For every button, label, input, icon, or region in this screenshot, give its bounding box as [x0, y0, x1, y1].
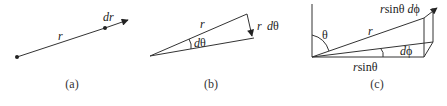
rsintheta-dphi-label: rsinθ dϕ: [380, 2, 420, 16]
dtheta-arc: [189, 39, 191, 49]
theta-label: θ: [322, 28, 328, 42]
panel-a: r dr (a): [15, 10, 128, 91]
dphi-arc: [381, 49, 383, 57]
r-dtheta-label-d: dθ: [267, 19, 279, 33]
spherical-displacement-diagram: r dr (a) r dθ r dθ (b) θ r dϕ rsinθ rsin…: [0, 0, 447, 106]
r-dtheta-label-r: r: [257, 19, 262, 33]
dphi-label: dϕ: [400, 44, 412, 58]
rsin-dphi-arrow: [424, 8, 437, 18]
r-dtheta-arrow: [247, 14, 252, 36]
caption-c: (c): [370, 77, 383, 91]
r-label: r: [368, 24, 373, 38]
caption-a: (a): [65, 77, 78, 91]
r-label: r: [58, 29, 63, 43]
caption-b: (b): [204, 77, 218, 91]
projected-radius-line: [312, 42, 433, 57]
floor-diagonal-line: [424, 42, 433, 57]
r-label: r: [200, 17, 205, 31]
dtheta-label: dθ: [194, 36, 206, 50]
tip-point: [103, 26, 107, 30]
dr-label: dr: [103, 10, 114, 24]
panel-c: θ r dϕ rsinθ rsinθ dϕ (c): [312, 2, 437, 91]
origin-point: [15, 55, 19, 59]
panel-b: r dθ r dθ (b): [150, 14, 279, 91]
rsintheta-label: rsinθ: [353, 60, 378, 74]
